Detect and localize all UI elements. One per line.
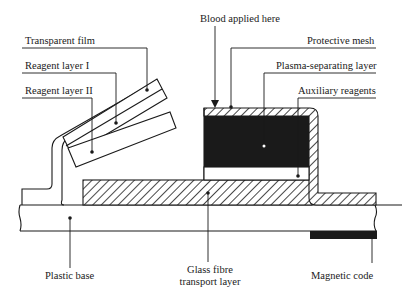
arrow-down-icon (211, 100, 219, 108)
label-glass-fibre-line1: Glass fibre (168, 264, 252, 276)
plastic-base (19, 205, 402, 231)
label-blood-applied: Blood applied here (200, 13, 280, 25)
label-glass-fibre-line2: transport layer (168, 276, 252, 288)
magnetic-code (310, 231, 377, 239)
plasma-separating-layer (204, 116, 309, 167)
label-auxiliary-reagents: Auxiliary reagents (298, 85, 376, 97)
label-magnetic-code: Magnetic code (311, 270, 373, 282)
label-transparent-film: Transparent film (25, 35, 95, 47)
label-plasma-separating: Plasma-separating layer (276, 60, 377, 72)
label-protective-mesh: Protective mesh (307, 35, 374, 47)
label-glass-fibre: Glass fibre transport layer (168, 264, 252, 288)
label-reagent-layer-2: Reagent layer II (25, 85, 93, 97)
test-strip-diagram: Transparent film Reagent layer I Reagent… (0, 0, 402, 306)
glass-fibre-layer (83, 180, 312, 205)
label-reagent-layer-1: Reagent layer I (25, 60, 89, 72)
label-plastic-base: Plastic base (45, 270, 94, 282)
auxiliary-reagents-layer (204, 167, 309, 180)
